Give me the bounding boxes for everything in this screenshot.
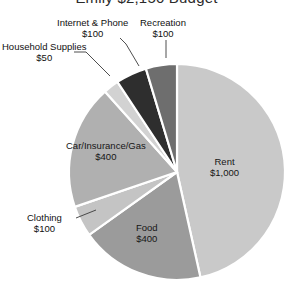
- slice-label-household-supplies-amount: $50: [2, 52, 87, 63]
- slice-label-clothing-name: Clothing: [27, 212, 62, 223]
- slice-label-household-supplies: Household Supplies $50: [2, 41, 87, 63]
- slice-label-recreation-amount: $100: [140, 28, 186, 39]
- pie-slice-group: [69, 64, 285, 280]
- slice-label-rent: Rent $1,000: [210, 156, 239, 178]
- slice-label-clothing-amount: $100: [27, 223, 62, 234]
- slice-label-car-insurance-gas-amount: $400: [66, 151, 146, 162]
- slice-label-internet-phone-name: Internet & Phone: [57, 17, 128, 28]
- slice-label-rent-name: Rent: [214, 156, 234, 167]
- slice-label-recreation-name: Recreation: [140, 17, 186, 28]
- slice-label-food: Food $400: [136, 222, 158, 244]
- slice-label-food-name: Food: [136, 222, 158, 233]
- slice-label-recreation: Recreation $100: [140, 17, 186, 39]
- slice-label-food-amount: $400: [136, 233, 158, 244]
- slice-label-clothing: Clothing $100: [27, 212, 62, 234]
- slice-label-rent-amount: $1,000: [210, 167, 239, 178]
- slice-label-car-insurance-gas: Car/Insurance/Gas $400: [66, 140, 146, 162]
- slice-label-car-insurance-gas-name: Car/Insurance/Gas: [66, 140, 146, 151]
- slice-label-internet-phone: Internet & Phone $100: [57, 17, 128, 39]
- slice-label-internet-phone-amount: $100: [57, 28, 128, 39]
- slice-label-household-supplies-name: Household Supplies: [2, 41, 87, 52]
- pie-chart-figure: Emily $2,150 Budget Household Supplies $…: [0, 0, 293, 284]
- leader-line-internet-phone: [120, 38, 139, 66]
